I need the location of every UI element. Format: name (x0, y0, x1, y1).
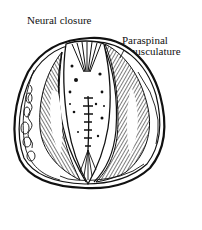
neural-closure-illustration (0, 0, 202, 230)
